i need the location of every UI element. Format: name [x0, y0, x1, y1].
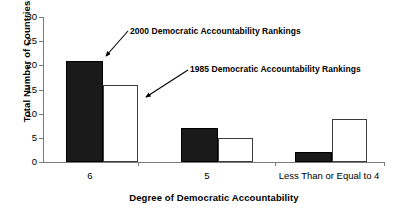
- x-axis-end-tick: [384, 162, 385, 166]
- x-tick-label-le4: Less Than or Equal to 4: [279, 170, 380, 181]
- y-tick-mark-30: [39, 17, 43, 18]
- annotation-label-1985: 1985 Democratic Accountability Rankings: [190, 64, 361, 74]
- y-tick-mark-10: [39, 114, 43, 115]
- bar-2000-category-le4: [295, 152, 332, 162]
- y-axis-line: [43, 17, 44, 162]
- y-tick-label-10: 10: [0, 108, 37, 119]
- y-tick-label-30: 30: [0, 11, 37, 22]
- y-tick-label-20: 20: [0, 59, 37, 70]
- plot-area: 0 5 10 15 20 25 30 6 5 Less Than or Equa…: [43, 17, 385, 162]
- y-tick-label-0: 0: [0, 156, 37, 167]
- bar-2000-category-5: [181, 128, 218, 162]
- x-category-separator-2: [275, 162, 276, 166]
- x-axis-line: [43, 162, 385, 163]
- x-axis-title: Degree of Democratic Accountability: [43, 192, 385, 203]
- y-tick-mark-15: [39, 90, 43, 91]
- y-tick-mark-0: [39, 162, 43, 163]
- x-tick-label-5: 5: [204, 170, 209, 181]
- y-tick-mark-20: [39, 65, 43, 66]
- annotation-label-2000: 2000 Democratic Accountability Rankings: [130, 26, 301, 36]
- x-tick-label-6: 6: [87, 170, 92, 181]
- y-tick-label-5: 5: [0, 132, 37, 143]
- bar-1985-category-5: [218, 138, 253, 162]
- bar-2000-category-6: [66, 61, 103, 163]
- bar-chart-figure: Total Number of Countries Degree of Demo…: [0, 0, 400, 215]
- y-tick-mark-25: [39, 41, 43, 42]
- bar-1985-category-6: [103, 85, 138, 162]
- y-tick-label-25: 25: [0, 35, 37, 46]
- y-tick-mark-5: [39, 138, 43, 139]
- y-tick-label-15: 15: [0, 84, 37, 95]
- bar-1985-category-le4: [332, 119, 367, 163]
- x-category-separator-1: [138, 162, 139, 166]
